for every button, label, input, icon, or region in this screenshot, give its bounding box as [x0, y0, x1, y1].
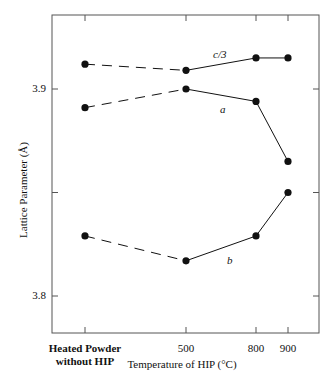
data-point-marker	[252, 98, 259, 105]
plot-frame	[52, 15, 319, 333]
x-axis-label: Temperature of HIP (°C)	[0, 358, 334, 370]
series-segment	[256, 101, 288, 161]
data-point-marker	[284, 158, 291, 165]
series-segment	[85, 64, 186, 70]
data-point-marker	[284, 189, 291, 196]
data-point-marker	[182, 67, 189, 74]
x-tick-label-500: 500	[166, 342, 206, 354]
series-markers	[81, 54, 291, 264]
data-point-marker	[81, 232, 88, 239]
series-segment	[186, 89, 256, 101]
axis-ticks	[52, 15, 319, 333]
data-point-marker	[81, 61, 88, 68]
data-point-marker	[252, 54, 259, 61]
series-segment	[256, 193, 288, 236]
y-tick-label-3-9: 3.9	[16, 82, 46, 94]
data-point-marker	[182, 257, 189, 264]
data-point-marker	[284, 54, 291, 61]
lattice-parameter-chart	[0, 0, 334, 383]
y-axis-label: Lattice Parameter (Å)	[17, 142, 29, 238]
y-tick-label-3-8: 3.8	[16, 289, 46, 301]
x-tick-label-900: 900	[268, 342, 308, 354]
x-tick-label-heated-line1: Heated Powder	[35, 342, 135, 355]
data-point-marker	[182, 85, 189, 92]
series-segment	[85, 89, 186, 108]
series-label-c-over-3: c/3	[213, 48, 226, 60]
series-segment	[186, 236, 256, 261]
data-point-marker	[252, 232, 259, 239]
series-segment	[85, 236, 186, 261]
series-label-b: b	[227, 254, 233, 266]
series-label-a: a	[220, 103, 226, 115]
data-point-marker	[81, 104, 88, 111]
